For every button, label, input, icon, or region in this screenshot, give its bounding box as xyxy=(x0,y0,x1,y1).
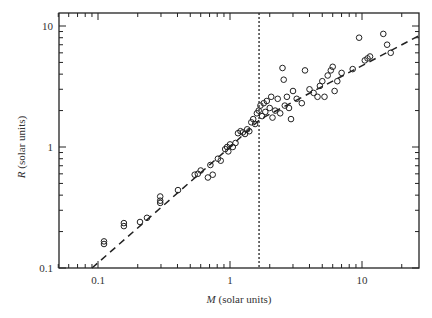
data-point xyxy=(325,73,331,79)
dashed-fit-line xyxy=(92,36,419,268)
data-point xyxy=(268,94,274,100)
y-tick-label: 0.1 xyxy=(39,262,53,274)
data-point xyxy=(284,94,290,100)
x-axis-unit: (solar units) xyxy=(216,293,272,306)
data-point xyxy=(356,35,362,41)
fit-line xyxy=(92,36,419,268)
y-tick-label: 1 xyxy=(48,141,54,153)
data-point xyxy=(137,219,143,225)
data-point xyxy=(299,100,305,106)
x-tick-label: 10 xyxy=(357,274,369,286)
data-point xyxy=(315,94,321,100)
data-point xyxy=(157,194,163,200)
data-point xyxy=(210,172,216,178)
data-point xyxy=(302,68,308,74)
data-point xyxy=(388,50,394,56)
data-point xyxy=(277,111,283,117)
data-point xyxy=(280,65,286,71)
plot-frame xyxy=(59,13,419,268)
x-axis-title: M (solar units) xyxy=(206,293,272,306)
x-tick-label: 1 xyxy=(227,274,233,286)
data-point xyxy=(320,78,326,84)
y-axis-unit: (solar units) xyxy=(15,115,28,171)
mass-radius-chart: 0.11100.1110 M (solar units) R (solar un… xyxy=(0,0,432,318)
data-points xyxy=(101,31,393,247)
data-point xyxy=(233,140,239,146)
data-point xyxy=(275,96,281,102)
data-point xyxy=(381,31,387,37)
data-point xyxy=(290,88,296,94)
data-point xyxy=(270,115,276,121)
data-point xyxy=(332,88,338,94)
data-point xyxy=(339,70,345,76)
y-tick-label: 10 xyxy=(42,20,54,32)
axis-ticks xyxy=(58,13,419,268)
axis-tick-labels: 0.11100.1110 xyxy=(39,20,368,286)
data-point xyxy=(384,42,390,48)
data-point xyxy=(267,105,273,111)
data-point xyxy=(335,78,341,84)
plot-border xyxy=(59,13,419,268)
y-axis-title: R (solar units) xyxy=(15,115,28,179)
data-point xyxy=(288,116,294,122)
x-tick-label: 0.1 xyxy=(91,274,105,286)
data-point xyxy=(322,94,328,100)
data-point xyxy=(281,77,287,83)
